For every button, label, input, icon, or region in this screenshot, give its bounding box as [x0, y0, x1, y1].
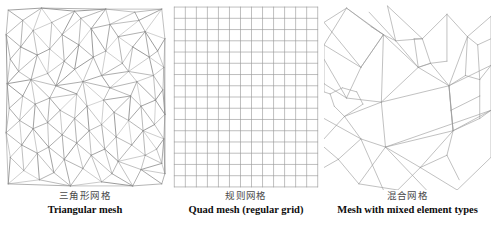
mesh-edge: [420, 155, 447, 167]
mesh-edge: [324, 8, 347, 22]
mesh-edge: [48, 98, 50, 123]
mesh-edge: [37, 55, 47, 73]
mesh-edge: [114, 112, 129, 120]
mesh-edge: [334, 106, 344, 116]
mesh-comparison-figure: 三角形网格 Triangular mesh 规则网格 Quad mesh (re…: [0, 0, 493, 237]
mesh-edge: [20, 96, 23, 121]
mesh-edge: [50, 35, 62, 49]
mesh-edge: [8, 180, 39, 184]
mesh-edge: [162, 174, 165, 184]
mesh-edge: [50, 86, 56, 98]
mesh-edge: [77, 143, 83, 169]
mesh-edge: [60, 94, 77, 110]
mesh-edge: [87, 106, 102, 124]
mesh-edge: [60, 110, 62, 135]
mesh-edge: [155, 100, 156, 125]
mesh-edge: [24, 171, 40, 180]
mesh-edge: [359, 184, 398, 190]
caption-cn-mixed: 混合网格: [324, 191, 491, 202]
mesh-edge: [162, 9, 165, 39]
mesh-edge: [56, 86, 77, 94]
mesh-edge: [87, 106, 89, 131]
panel-quad-mesh: 规则网格 Quad mesh (regular grid): [171, 4, 321, 215]
mesh-edge: [480, 65, 491, 79]
mesh-edge: [118, 161, 133, 186]
mesh-edge: [41, 8, 51, 22]
mesh-edge: [139, 20, 145, 31]
mesh-edge: [141, 100, 156, 106]
mesh-edge: [330, 94, 334, 106]
mesh-edge: [33, 123, 48, 129]
mesh-edge: [31, 55, 37, 80]
mesh-edge: [338, 139, 361, 159]
mesh-edge: [21, 47, 38, 55]
mesh-edge: [102, 51, 106, 76]
mesh-edge: [132, 145, 145, 155]
panel-triangular-mesh: 三角形网格 Triangular mesh: [2, 4, 168, 215]
mesh-edge: [133, 184, 162, 186]
mixed-mesh-svg: [324, 4, 491, 190]
mesh-edge: [75, 11, 81, 18]
mesh-edge: [37, 153, 54, 172]
mesh-edge: [149, 51, 157, 57]
mesh-edge: [87, 100, 104, 106]
mesh-edge: [155, 114, 165, 124]
mesh-edge: [49, 135, 62, 147]
mesh-edge: [6, 133, 22, 145]
mesh-edge: [116, 121, 128, 137]
mesh-edge: [52, 22, 62, 34]
mesh-edge: [381, 102, 385, 147]
mesh-edge: [361, 139, 386, 147]
mesh-edge: [131, 82, 137, 96]
mesh-edge: [20, 121, 33, 129]
mesh-edge: [324, 84, 347, 98]
mesh-edge: [91, 155, 112, 173]
mesh-edge: [91, 29, 106, 51]
mesh-edge: [7, 84, 9, 109]
mesh-edge: [75, 69, 83, 81]
caption-en-mixed: Mesh with mixed element types: [324, 204, 491, 216]
mesh-edge: [431, 63, 449, 85]
mesh-edge: [449, 86, 451, 111]
mesh-edge: [105, 137, 116, 149]
mesh-edge: [77, 82, 83, 94]
mesh-edge: [102, 112, 114, 124]
mesh-edge: [388, 6, 423, 39]
caption-triangular-mesh: 三角形网格 Triangular mesh: [2, 191, 168, 215]
mesh-edge: [396, 39, 423, 41]
mesh-edge: [129, 121, 144, 131]
mesh-edge: [22, 145, 24, 171]
mesh-edge: [104, 100, 114, 112]
mesh-edge: [420, 168, 457, 190]
caption-cn-quad: 规则网格: [171, 191, 321, 202]
mesh-edge: [451, 110, 453, 130]
mesh-edge: [10, 145, 21, 157]
mesh-edge: [324, 22, 361, 67]
mesh-edge: [338, 159, 358, 184]
mesh-edge: [143, 131, 145, 156]
mesh-edge: [129, 71, 137, 81]
mesh-edge: [478, 45, 480, 80]
mesh-edge: [478, 39, 491, 45]
mesh-edge: [75, 118, 90, 130]
mesh-edge: [145, 32, 165, 39]
mesh-edge: [418, 63, 430, 67]
mesh-edge: [129, 57, 150, 71]
mesh-edge: [50, 22, 52, 49]
mesh-edge: [35, 98, 50, 104]
mesh-edge: [135, 12, 139, 20]
mesh-edge: [447, 14, 467, 36]
mesh-edge: [70, 169, 82, 186]
mesh-edge: [112, 174, 133, 186]
mesh-edge: [465, 37, 467, 76]
mesh-edge: [23, 96, 35, 104]
mesh-edge: [10, 47, 20, 59]
mesh-edge: [48, 123, 63, 135]
mesh-edge: [324, 147, 338, 159]
mesh-edge: [129, 71, 154, 75]
mesh-edge: [398, 168, 421, 190]
mesh-edge: [361, 35, 384, 68]
mesh-edge: [141, 170, 162, 184]
mesh-edge: [83, 82, 87, 107]
mesh-edge: [8, 157, 10, 184]
